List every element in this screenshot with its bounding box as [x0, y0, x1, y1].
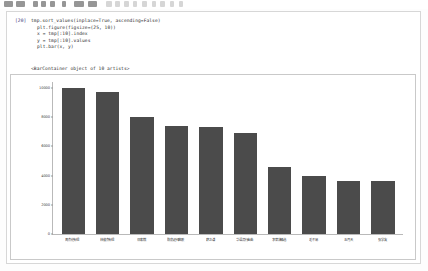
- bar: [371, 181, 394, 234]
- bar: [165, 126, 188, 234]
- code-line[interactable]: tmp.sort_values(inplace=True, ascending=…: [31, 18, 161, 25]
- bar: [234, 133, 257, 234]
- toolbar-blob: [4, 1, 13, 7]
- x-label-slot: 邓紫棋: [124, 237, 159, 253]
- notebook-cell-card: [20] tmp.sort_values(inplace=True, ascen…: [6, 11, 421, 264]
- x-axis-tick-label: 五月天: [344, 237, 352, 242]
- cell-output-text: <BarContainer object of 10 artists>: [31, 66, 130, 71]
- toolbar-blob: [50, 1, 55, 7]
- x-label-slot: 华语流行金曲: [228, 237, 263, 253]
- toolbar-blob: [16, 1, 25, 7]
- toolbar-blob: [179, 1, 183, 7]
- bar: [62, 88, 85, 234]
- code-cell[interactable]: [20] tmp.sort_values(inplace=True, ascen…: [7, 15, 420, 59]
- y-axis-tick-mark: [51, 117, 53, 118]
- toolbar-blob: [133, 1, 137, 7]
- bar-slot: [262, 82, 296, 234]
- matplotlib-figure: 0200040006000800010000 周杰伦专辑林俊杰专辑邓紫棋陈奕迅经…: [10, 74, 416, 260]
- x-axis-tick-label: 李荣浩精选: [272, 237, 286, 242]
- x-label-slot: 周杰伦专辑: [55, 237, 90, 253]
- x-axis-tick-label: 林俊杰专辑: [100, 237, 114, 242]
- toolbar-blob: [160, 1, 165, 7]
- x-axis-tick-labels: 周杰伦专辑林俊杰专辑邓紫棋陈奕迅经典歌薛之谦华语流行金曲李荣浩精选毛不易五月天张…: [52, 237, 403, 253]
- plot-axes-area: 0200040006000800010000: [52, 82, 403, 235]
- bar-slot: [90, 82, 124, 234]
- bar: [302, 176, 325, 234]
- bar-slot: [331, 82, 365, 234]
- bar-slot: [194, 82, 228, 234]
- browser-toolbar-strip: [0, 0, 428, 9]
- bar-slot: [228, 82, 262, 234]
- bar: [130, 117, 153, 234]
- bar-slot: [56, 82, 90, 234]
- x-axis-tick-label: 毛不易: [310, 237, 318, 242]
- x-axis-tick-label: 薛之谦: [206, 237, 214, 242]
- bar-slot: [159, 82, 193, 234]
- bar: [337, 181, 360, 234]
- toolbar-blob: [115, 1, 120, 7]
- x-axis-tick-label: 华语流行金曲: [237, 237, 253, 242]
- y-axis-tick-mark: [51, 234, 53, 235]
- x-label-slot: 张学友: [366, 237, 401, 253]
- code-editor-lines[interactable]: tmp.sort_values(inplace=True, ascending=…: [31, 18, 161, 51]
- x-label-slot: 林俊杰专辑: [90, 237, 125, 253]
- y-axis-tick-mark: [51, 146, 53, 147]
- screenshot-root: [20] tmp.sort_values(inplace=True, ascen…: [0, 0, 428, 271]
- toolbar-blob: [41, 1, 46, 7]
- cell-prompt-label: [20]: [15, 18, 26, 23]
- toolbar-blob: [106, 1, 112, 7]
- x-label-slot: 五月天: [331, 237, 366, 253]
- toolbar-blob: [152, 1, 156, 7]
- toolbar-blob: [170, 1, 174, 7]
- toolbar-blob: [142, 1, 147, 7]
- x-label-slot: 陈奕迅经典歌: [159, 237, 194, 253]
- code-line[interactable]: y = tmp[:10].values: [31, 38, 161, 45]
- bar: [199, 127, 222, 234]
- x-label-slot: 李荣浩精选: [262, 237, 297, 253]
- code-line[interactable]: plt.figure(figsize=(25, 10)): [31, 25, 161, 32]
- y-axis-tick-mark: [51, 87, 53, 88]
- code-line[interactable]: x = tmp[:10].index: [31, 31, 161, 38]
- code-line[interactable]: plt.bar(x, y): [31, 44, 161, 51]
- x-axis-tick-label: 周杰伦专辑: [65, 237, 79, 242]
- bar-slot: [125, 82, 159, 234]
- toolbar-blob: [124, 1, 129, 7]
- x-axis-tick-label: 邓紫棋: [137, 237, 145, 242]
- bar: [268, 167, 291, 234]
- y-axis-tick-mark: [51, 175, 53, 176]
- y-axis-tick-mark: [51, 204, 53, 205]
- bar-slot: [297, 82, 331, 234]
- x-label-slot: 薛之谦: [193, 237, 228, 253]
- toolbar-blob: [74, 1, 84, 7]
- x-axis-tick-label: 陈奕迅经典歌: [168, 237, 184, 242]
- toolbar-blob: [62, 1, 66, 7]
- bar: [96, 92, 119, 234]
- x-label-slot: 毛不易: [297, 237, 332, 253]
- toolbar-blob: [33, 1, 38, 7]
- toolbar-blob: [88, 1, 97, 7]
- bar-series: [53, 82, 403, 234]
- bar-slot: [366, 82, 400, 234]
- x-axis-tick-label: 张学友: [379, 237, 387, 242]
